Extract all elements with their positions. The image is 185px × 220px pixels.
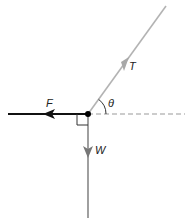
weight-label: W (95, 145, 105, 156)
angle-label: θ (108, 98, 114, 109)
angle-arc (99, 99, 106, 114)
tension-label: T (129, 61, 136, 72)
friction-label: F (46, 98, 53, 109)
free-body-diagram (0, 0, 185, 220)
tension-arrowhead-icon (121, 57, 129, 71)
object-point (85, 111, 91, 117)
